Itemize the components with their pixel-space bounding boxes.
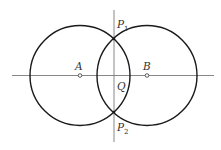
label-A: A bbox=[74, 60, 83, 72]
label-P2-subscript: 2 bbox=[124, 128, 128, 136]
geometry-figure: A B Q P 1 P 2 bbox=[0, 0, 221, 150]
point-A-marker bbox=[78, 74, 82, 78]
point-P1-marker bbox=[113, 38, 116, 41]
label-B: B bbox=[142, 60, 151, 72]
label-P1-subscript: 1 bbox=[124, 25, 128, 33]
point-B-marker bbox=[145, 74, 149, 78]
label-Q: Q bbox=[117, 80, 126, 93]
point-P2-marker bbox=[113, 111, 116, 114]
diagram-canvas: A B Q P 1 P 2 bbox=[0, 0, 221, 150]
